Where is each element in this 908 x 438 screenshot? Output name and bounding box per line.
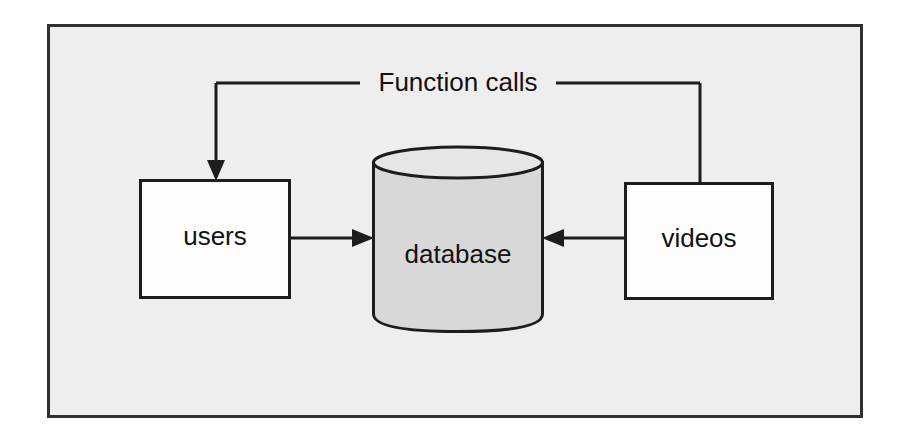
edge-label-function-calls: Function calls — [379, 67, 538, 97]
node-users[interactable]: users — [141, 181, 290, 298]
diagram-svg: Function calls users database vi — [0, 0, 908, 438]
diagram-canvas: Function calls users database vi — [0, 0, 908, 438]
database-cylinder-top — [374, 147, 543, 178]
database-label: database — [405, 239, 512, 269]
users-label: users — [183, 221, 247, 251]
node-database[interactable]: database — [374, 147, 543, 332]
videos-label: videos — [661, 223, 736, 253]
node-videos[interactable]: videos — [626, 184, 773, 299]
